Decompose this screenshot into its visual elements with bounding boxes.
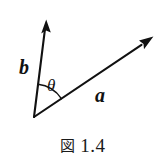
figure-1-4: b a θ 図1.4 (0, 0, 165, 161)
vector-a-label: a (95, 85, 105, 105)
vector-b-label: b (19, 57, 29, 77)
caption-figure-number: 1.4 (80, 135, 105, 157)
vector-b-shaft (34, 28, 45, 117)
vector-a-arrowhead (139, 36, 153, 49)
theta-angle-label: θ (47, 77, 55, 94)
vector-b-arrowhead (41, 20, 51, 34)
figure-caption: 図1.4 (0, 134, 165, 157)
caption-figure-word: 図 (60, 134, 76, 155)
